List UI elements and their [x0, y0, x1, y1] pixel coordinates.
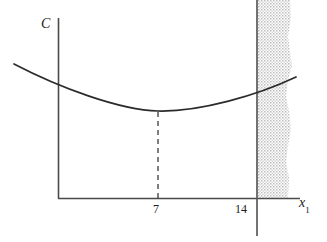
- cost-curve-path: [14, 64, 296, 111]
- plot-canvas: [0, 0, 327, 242]
- x-tick-label-7: 7: [153, 203, 159, 215]
- x-tick-label-14: 14: [235, 203, 247, 215]
- cost-curve-figure: C x1 7 14: [0, 0, 327, 242]
- x-axis-label: x1: [299, 196, 310, 213]
- infeasible-region-shading: [258, 0, 292, 198]
- x-axis-label-subscript: 1: [305, 205, 310, 215]
- y-axis-label: C: [41, 17, 50, 31]
